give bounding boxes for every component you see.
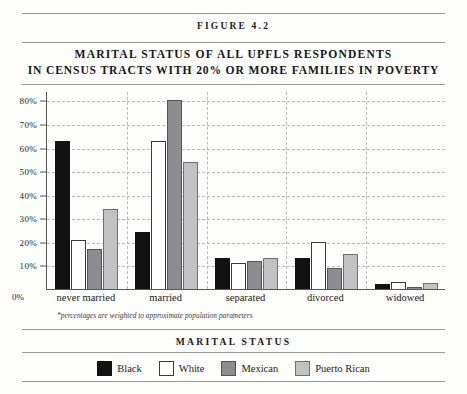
legend-label: White [179,363,205,374]
bar-group [127,92,207,289]
divider-above-legend-title [22,329,445,330]
bar [263,258,278,289]
legend-label: Puerto Rican [315,363,370,374]
y-axis-tick-label: 40% [20,191,37,201]
bar [327,268,342,289]
figure-number: FIGURE 4.2 [0,21,467,31]
divider-under-legend-title [22,352,445,353]
divider-under-title [22,84,445,85]
divider-top [22,13,445,14]
divider-under-figure-number [22,42,445,43]
y-axis-zero-label: 0% [12,292,24,302]
legend-swatch [97,361,112,376]
bar [135,232,150,289]
x-axis-labels: never marriedmarriedseparateddivorcedwid… [46,292,445,308]
bar [375,284,390,289]
bar [55,141,70,290]
bar [167,100,182,289]
legend-item: Mexican [221,361,278,376]
bar [103,209,118,289]
legend-swatch [221,361,236,376]
y-axis: 80%70%60%50%40%30%20%10% [0,92,46,290]
page-title: MARITAL STATUS OF ALL UPFLS RESPONDENTS … [14,47,453,79]
legend: BlackWhiteMexicanPuerto Rican [22,356,445,380]
bar [423,283,438,289]
divider-under-legend [22,381,445,382]
legend-swatch [295,361,310,376]
bar [183,162,198,289]
bar [295,258,310,289]
bar [231,263,246,289]
y-axis-tick-label: 80% [20,96,37,106]
bar-group [207,92,287,289]
bar [311,242,326,289]
x-axis-tick-label: separated [226,292,266,303]
bar [87,249,102,289]
legend-label: Black [117,363,142,374]
legend-label: Mexican [241,363,278,374]
chart-title-line-2: IN CENSUS TRACTS WITH 20% OR MORE FAMILI… [14,63,453,79]
bar-group [366,92,446,289]
y-axis-tick-label: 60% [20,144,37,154]
bar [343,254,358,289]
plot-wrapper [46,92,445,290]
chart-title-line-1: MARITAL STATUS OF ALL UPFLS RESPONDENTS [14,47,453,63]
y-axis-tick-label: 50% [20,167,37,177]
bar-group [286,92,366,289]
bar [215,258,230,289]
footnote: *percentages are weighted to approximate… [57,311,253,320]
plot-area [46,92,445,290]
y-axis-tick-label: 30% [20,214,37,224]
x-axis-tick-label: widowed [386,292,425,303]
x-axis-tick-label: married [149,292,182,303]
y-axis-tick-label: 20% [20,238,37,248]
legend-item: White [159,361,205,376]
bar [407,287,422,289]
x-axis-tick-label: never married [57,292,116,303]
legend-swatch [159,361,174,376]
bar [391,282,406,289]
bar [151,141,166,290]
legend-item: Puerto Rican [295,361,370,376]
y-axis-tick-label: 70% [20,120,37,130]
legend-title: MARITAL STATUS [0,336,467,347]
bar [71,240,86,290]
bar-group [47,92,127,289]
figure-container: FIGURE 4.2 MARITAL STATUS OF ALL UPFLS R… [0,0,467,394]
x-axis-tick-label: divorced [307,292,344,303]
legend-item: Black [97,361,142,376]
y-axis-tick-label: 10% [20,261,37,271]
bar [247,261,262,289]
